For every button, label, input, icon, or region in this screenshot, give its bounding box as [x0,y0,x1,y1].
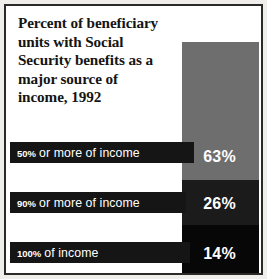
criterion-label-90: 90% or more of income [10,192,186,213]
criterion-rest-100: of income [41,246,98,260]
criterion-rest-90: or more of income [36,196,140,210]
chart-title-line-5: income, 1992 [18,88,186,107]
column-value-90: 26% [182,195,259,213]
criterion-label-100: 100% of income [10,242,190,263]
criterion-prefix-50: 50% [17,148,36,159]
criterion-label-50: 50% or more of income [10,142,194,163]
column-value-100: 14% [182,245,259,263]
chart-title-line-1: Percent of beneficiary [18,14,186,33]
criterion-prefix-100: 100% [17,248,41,259]
chart-title-line-2: units with Social [18,33,186,52]
criterion-rest-50: or more of income [36,146,140,160]
criterion-prefix-90: 90% [17,198,36,209]
chart-figure: Percent of beneficiary units with Social… [0,0,267,279]
chart-title: Percent of beneficiary units with Social… [18,14,186,107]
plot-area: Percent of beneficiary units with Social… [6,6,261,273]
chart-title-line-4: major source of [18,70,186,89]
chart-title-line-3: Security benefits as a [18,51,186,70]
